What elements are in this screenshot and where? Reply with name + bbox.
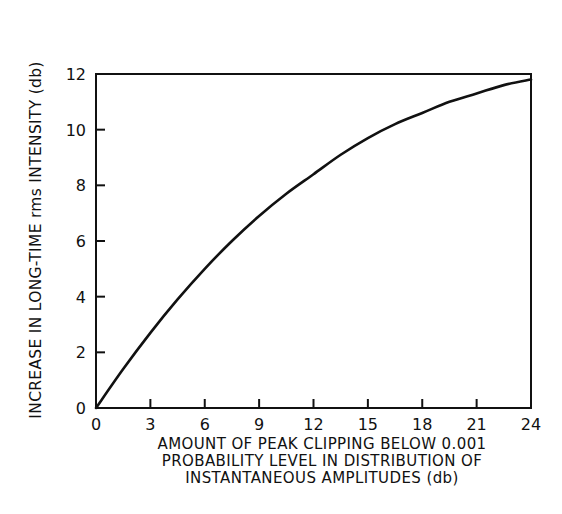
x-axis-ticks: 03691215182124 [91, 399, 541, 434]
y-tick-label: 2 [76, 343, 86, 362]
x-axis-label: AMOUNT OF PEAK CLIPPING BELOW 0.001 PROB… [96, 436, 548, 487]
x-axis-label-line-3: INSTANTANEOUS AMPLITUDES (db) [96, 470, 548, 487]
x-axis-label-line-2: PROBABILITY LEVEL IN DISTRIBUTION OF [96, 453, 548, 470]
y-tick-label: 10 [66, 121, 86, 140]
y-tick-label: 12 [66, 65, 86, 84]
x-tick-label: 21 [466, 415, 486, 434]
x-tick-label: 24 [521, 415, 541, 434]
data-curve [96, 80, 531, 408]
y-axis-ticks: 024681012 [66, 65, 105, 418]
y-tick-label: 4 [76, 288, 86, 307]
x-tick-label: 0 [91, 415, 101, 434]
x-tick-label: 6 [200, 415, 210, 434]
y-tick-label: 0 [76, 399, 86, 418]
plot-frame [96, 74, 531, 408]
x-tick-label: 12 [303, 415, 323, 434]
x-tick-label: 18 [412, 415, 432, 434]
x-tick-label: 9 [254, 415, 264, 434]
x-axis-label-line-1: AMOUNT OF PEAK CLIPPING BELOW 0.001 [96, 436, 548, 453]
x-tick-label: 3 [145, 415, 155, 434]
y-tick-label: 6 [76, 232, 86, 251]
y-axis-label: INCREASE IN LONG-TIME rms INTENSITY (db) [27, 61, 45, 418]
x-tick-label: 15 [358, 415, 378, 434]
y-tick-label: 8 [76, 176, 86, 195]
